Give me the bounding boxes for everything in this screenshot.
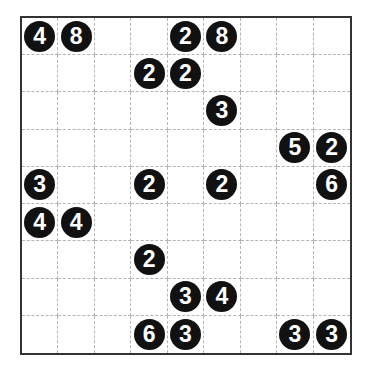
grid-cell-r3-c5[interactable]	[204, 130, 240, 167]
grid-cell-r4-c2[interactable]	[95, 167, 131, 204]
grid-cell-r4-c8[interactable]: 6	[314, 167, 350, 204]
number-clue-circle: 2	[170, 21, 201, 52]
number-clue-circle: 3	[170, 319, 201, 350]
grid-cell-r0-c5[interactable]: 8	[204, 18, 240, 55]
grid-cell-r6-c1[interactable]	[58, 241, 94, 278]
grid-cell-r4-c7[interactable]	[277, 167, 313, 204]
number-clue-circle: 4	[24, 207, 55, 238]
grid-cell-r7-c6[interactable]	[241, 279, 277, 316]
grid-cell-r7-c0[interactable]	[22, 279, 58, 316]
grid-cell-r3-c4[interactable]	[168, 130, 204, 167]
number-clue-circle: 3	[24, 169, 55, 200]
grid-cell-r3-c1[interactable]	[58, 130, 94, 167]
grid-cell-r5-c2[interactable]	[95, 204, 131, 241]
number-clue-circle: 2	[170, 58, 201, 89]
grid-cell-r6-c6[interactable]	[241, 241, 277, 278]
grid-cell-r5-c7[interactable]	[277, 204, 313, 241]
grid-cell-r6-c5[interactable]	[204, 241, 240, 278]
grid-cell-r3-c0[interactable]	[22, 130, 58, 167]
grid-cell-r1-c8[interactable]	[314, 55, 350, 92]
number-clue-circle: 2	[134, 244, 165, 275]
grid-cell-r5-c0[interactable]: 4	[22, 204, 58, 241]
grid-cell-r8-c8[interactable]: 3	[314, 316, 350, 353]
grid-cell-r4-c6[interactable]	[241, 167, 277, 204]
number-clue-circle: 6	[316, 169, 347, 200]
grid-cell-r4-c1[interactable]	[58, 167, 94, 204]
grid-cell-r7-c7[interactable]	[277, 279, 313, 316]
grid-cell-r2-c2[interactable]	[95, 92, 131, 129]
grid-cell-r2-c4[interactable]	[168, 92, 204, 129]
grid-cell-r4-c5[interactable]: 2	[204, 167, 240, 204]
grid-cell-r2-c3[interactable]	[131, 92, 167, 129]
grid-cell-r7-c4[interactable]: 3	[168, 279, 204, 316]
grid-cell-r2-c8[interactable]	[314, 92, 350, 129]
grid-cell-r3-c6[interactable]	[241, 130, 277, 167]
grid-cell-r7-c3[interactable]	[131, 279, 167, 316]
grid-cell-r1-c5[interactable]	[204, 55, 240, 92]
number-clue-circle: 6	[134, 319, 165, 350]
grid-cell-r8-c6[interactable]	[241, 316, 277, 353]
number-clue-circle: 3	[170, 281, 201, 312]
grid-cell-r0-c3[interactable]	[131, 18, 167, 55]
grid-cell-r6-c0[interactable]	[22, 241, 58, 278]
number-clue-circle: 4	[61, 207, 92, 238]
grid-cell-r1-c0[interactable]	[22, 55, 58, 92]
grid-cell-r6-c3[interactable]: 2	[131, 241, 167, 278]
grid-cell-r0-c7[interactable]	[277, 18, 313, 55]
grid-cell-r1-c3[interactable]: 2	[131, 55, 167, 92]
number-clue-circle: 3	[316, 319, 347, 350]
grid-cell-r1-c2[interactable]	[95, 55, 131, 92]
number-clue-circle: 5	[279, 132, 310, 163]
grid-cell-r0-c0[interactable]: 4	[22, 18, 58, 55]
number-clue-circle: 4	[206, 281, 237, 312]
grid-cell-r8-c5[interactable]	[204, 316, 240, 353]
grid-cell-r6-c8[interactable]	[314, 241, 350, 278]
grid-cell-r1-c6[interactable]	[241, 55, 277, 92]
grid-cell-r2-c7[interactable]	[277, 92, 313, 129]
grid-cell-r0-c2[interactable]	[95, 18, 131, 55]
grid-cell-r6-c2[interactable]	[95, 241, 131, 278]
grid-cell-r8-c7[interactable]: 3	[277, 316, 313, 353]
number-clue-circle: 8	[206, 21, 237, 52]
grid-cell-r0-c1[interactable]: 8	[58, 18, 94, 55]
grid-cell-r6-c4[interactable]	[168, 241, 204, 278]
grid-cell-r3-c8[interactable]: 2	[314, 130, 350, 167]
grid-cell-r8-c0[interactable]	[22, 316, 58, 353]
grid-cell-r4-c4[interactable]	[168, 167, 204, 204]
grid-cell-r1-c4[interactable]: 2	[168, 55, 204, 92]
grid-cell-r2-c0[interactable]	[22, 92, 58, 129]
grid-cell-r3-c3[interactable]	[131, 130, 167, 167]
grid-cell-r5-c6[interactable]	[241, 204, 277, 241]
grid-cell-r0-c6[interactable]	[241, 18, 277, 55]
puzzle-grid: 4828223523226442346333	[20, 16, 352, 355]
grid-cell-r5-c8[interactable]	[314, 204, 350, 241]
grid-cell-r7-c1[interactable]	[58, 279, 94, 316]
number-clue-circle: 2	[316, 132, 347, 163]
grid-cell-r5-c3[interactable]	[131, 204, 167, 241]
grid-cell-r3-c2[interactable]	[95, 130, 131, 167]
grid-cell-r3-c7[interactable]: 5	[277, 130, 313, 167]
grid-cell-r5-c5[interactable]	[204, 204, 240, 241]
grid-cell-r0-c4[interactable]: 2	[168, 18, 204, 55]
grid-cell-r0-c8[interactable]	[314, 18, 350, 55]
grid-cell-r5-c4[interactable]	[168, 204, 204, 241]
grid-cell-r7-c5[interactable]: 4	[204, 279, 240, 316]
grid-cell-r2-c1[interactable]	[58, 92, 94, 129]
grid-cell-r5-c1[interactable]: 4	[58, 204, 94, 241]
grid-cell-r8-c4[interactable]: 3	[168, 316, 204, 353]
number-clue-circle: 3	[279, 319, 310, 350]
grid-cell-r7-c8[interactable]	[314, 279, 350, 316]
grid-cell-r2-c6[interactable]	[241, 92, 277, 129]
number-clue-circle: 8	[61, 21, 92, 52]
grid-cell-r7-c2[interactable]	[95, 279, 131, 316]
grid-cell-r8-c2[interactable]	[95, 316, 131, 353]
grid-cell-r6-c7[interactable]	[277, 241, 313, 278]
grid-cell-r4-c3[interactable]: 2	[131, 167, 167, 204]
grid-cell-r8-c1[interactable]	[58, 316, 94, 353]
grid-cell-r4-c0[interactable]: 3	[22, 167, 58, 204]
number-clue-circle: 3	[206, 95, 237, 126]
grid-cell-r2-c5[interactable]: 3	[204, 92, 240, 129]
grid-cell-r8-c3[interactable]: 6	[131, 316, 167, 353]
grid-cell-r1-c7[interactable]	[277, 55, 313, 92]
grid-cell-r1-c1[interactable]	[58, 55, 94, 92]
